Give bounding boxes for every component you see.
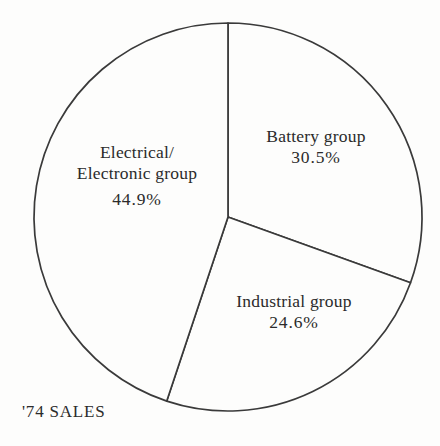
pie-label-industrial-group-value: 24.6% — [205, 312, 383, 333]
pie-chart: Battery group 30.5% Electrical/ Electron… — [0, 0, 440, 446]
pie-label-industrial-group: Industrial group 24.6% — [205, 291, 383, 334]
pie-label-electrical-electronic-group-name-line1: Electrical/ — [42, 142, 232, 163]
chart-caption: '74 SALES — [22, 402, 105, 422]
pie-label-electrical-electronic-group-value: 44.9% — [42, 189, 232, 210]
pie-label-industrial-group-name: Industrial group — [205, 291, 383, 312]
pie-label-battery-group: Battery group 30.5% — [236, 126, 396, 169]
pie-label-electrical-electronic-group-name-line2: Electronic group — [42, 163, 232, 184]
pie-label-electrical-electronic-group: Electrical/ Electronic group 44.9% — [42, 142, 232, 210]
pie-chart-canvas — [0, 0, 440, 446]
pie-label-battery-group-value: 30.5% — [236, 147, 396, 168]
pie-label-battery-group-name: Battery group — [236, 126, 396, 147]
